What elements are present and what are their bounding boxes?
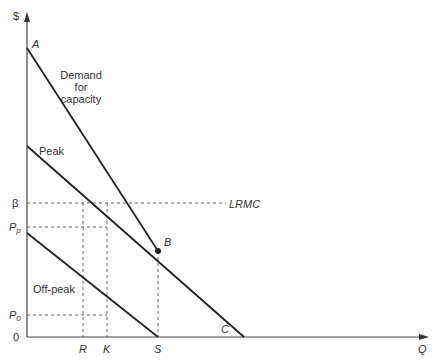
peak-curve: [27, 146, 244, 337]
pp-label: Pp: [9, 221, 21, 237]
demand-for-capacity-label: Demand for capacity: [56, 69, 106, 105]
y-axis-label: $: [13, 10, 19, 22]
point-a-label: A: [32, 38, 39, 50]
guide-lines: [27, 203, 226, 337]
demand-label-line-1: Demand: [56, 69, 106, 81]
x-axis-arrow-icon: [419, 334, 429, 340]
peak-label: Peak: [39, 145, 64, 157]
axes: [27, 18, 422, 337]
demand-label-line-3: capacity: [56, 93, 106, 105]
p0-label: P0: [9, 309, 21, 325]
point-c-label: C: [221, 323, 229, 335]
diagram-canvas: [0, 0, 440, 363]
p0-label-sub: 0: [16, 314, 20, 323]
y-axis-arrow-icon: [24, 12, 30, 22]
off-peak-label: Off-peak: [33, 283, 75, 295]
pp-label-sub: p: [16, 226, 20, 235]
x-axis-label: Q: [418, 343, 427, 355]
point-b-label: B: [164, 236, 171, 248]
beta-label: β: [12, 197, 18, 209]
demand-label-line-2: for: [56, 81, 106, 93]
origin-label: 0: [13, 331, 19, 343]
point-b-marker: [155, 248, 161, 254]
s-label: S: [154, 343, 161, 355]
r-label: R: [79, 343, 87, 355]
k-label: K: [103, 343, 110, 355]
lrmc-label: LRMC: [229, 198, 260, 210]
